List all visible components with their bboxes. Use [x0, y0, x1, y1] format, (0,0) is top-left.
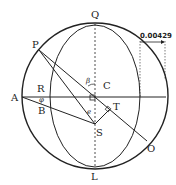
label-C: C [103, 80, 111, 91]
label-T: T [113, 101, 120, 112]
label-beta: β [85, 77, 90, 85]
label-O: O [147, 143, 155, 154]
measurement-value: 0.00429 [140, 32, 172, 40]
label-R: R [37, 83, 45, 94]
label-epsilon: e [87, 108, 91, 116]
label-A: A [10, 92, 19, 103]
label-phi: φ [39, 96, 44, 104]
sphere-diagram: Q L P O A R B C T S β φ e 0.00429 [0, 0, 176, 185]
label-B: B [38, 105, 45, 116]
label-L: L [91, 171, 98, 182]
line-PO [39, 50, 147, 141]
label-S: S [96, 127, 103, 138]
label-P: P [32, 39, 39, 50]
label-Q: Q [91, 9, 99, 20]
line-AS [22, 97, 95, 124]
